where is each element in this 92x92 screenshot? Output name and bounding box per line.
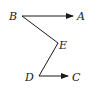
point-label-c: C	[72, 71, 81, 84]
point-label-d: D	[24, 71, 34, 84]
point-label-b: B	[8, 10, 17, 23]
point-label-a: A	[76, 10, 85, 23]
geometry-diagram: B A E D C	[0, 0, 92, 92]
segment-b-e	[22, 16, 58, 43]
point-label-e: E	[58, 39, 67, 52]
segment-e-d	[39, 43, 58, 76]
